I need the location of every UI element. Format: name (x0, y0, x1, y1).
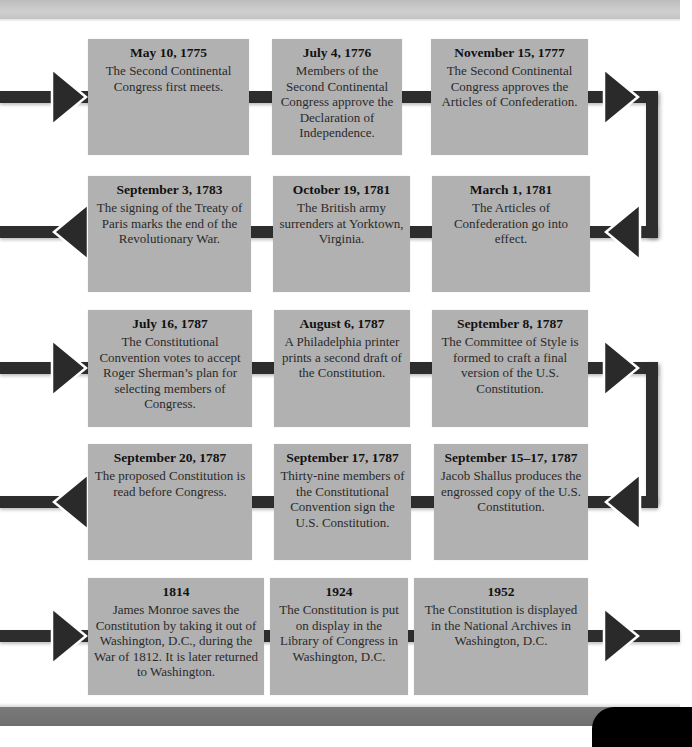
connector-line (409, 496, 436, 508)
event-date: July 4, 1776 (278, 45, 396, 61)
event-description: The Constitution is displayed in the Nat… (420, 602, 582, 649)
connector-line (400, 91, 434, 103)
arrow-right-icon (602, 67, 642, 127)
event-date: September 17, 1787 (280, 450, 405, 466)
timeline-event: September 3, 1783 The signing of the Tre… (88, 176, 251, 292)
arrow-right-icon (602, 338, 642, 398)
event-description: The Second Continental Congress approves… (437, 63, 582, 110)
arrow-left-icon (50, 202, 90, 262)
timeline-event: 1814 James Monroe saves the Constitution… (88, 578, 264, 695)
timeline-event: July 4, 1776 Members of the Second Conti… (272, 39, 402, 155)
arrow-left-icon (602, 202, 642, 262)
event-date: July 16, 1787 (94, 316, 246, 332)
timeline-event: October 19, 1781 The British army surren… (273, 176, 410, 292)
timeline-event: September 20, 1787 The proposed Constitu… (88, 444, 252, 560)
event-date: March 1, 1781 (438, 182, 584, 198)
event-description: A Philadelphia printer prints a second d… (280, 334, 404, 381)
connector-line (250, 362, 276, 374)
connector-line (250, 496, 276, 508)
connector-line (408, 226, 434, 238)
event-date: 1924 (276, 584, 402, 600)
timeline-event: August 6, 1787 A Philadelphia printer pr… (274, 310, 410, 427)
connector-line (248, 91, 274, 103)
top-texture-band (0, 0, 680, 19)
event-description: Thirty-nine members of the Constitutiona… (280, 468, 405, 530)
timeline-event: May 10, 1775 The Second Continental Cong… (88, 39, 249, 155)
event-date: September 8, 1787 (438, 316, 582, 332)
arrow-right-icon (50, 606, 90, 666)
connector-line (408, 362, 434, 374)
arrow-left-icon (50, 472, 90, 532)
connector-line-vertical (646, 362, 658, 504)
timeline-event: July 16, 1787 The Constitutional Convent… (88, 310, 252, 427)
event-date: August 6, 1787 (280, 316, 404, 332)
event-description: James Monroe saves the Constitution by t… (94, 602, 258, 680)
event-description: The Articles of Confederation go into ef… (438, 200, 584, 247)
timeline-event: November 15, 1777 The Second Continental… (431, 39, 588, 155)
timeline-event: 1952 The Constitution is displayed in th… (414, 578, 588, 695)
event-date: September 20, 1787 (94, 450, 246, 466)
event-description: Jacob Shallus produces the engrossed cop… (440, 468, 582, 515)
event-description: The proposed Constitution is read before… (94, 468, 246, 499)
event-date: November 15, 1777 (437, 45, 582, 61)
corner-tab (592, 707, 692, 747)
bottom-band (0, 707, 680, 726)
timeline-event: September 15–17, 1787 Jacob Shallus prod… (434, 444, 588, 560)
arrow-left-icon (602, 472, 642, 532)
event-description: Members of the Second Continental Congre… (278, 63, 396, 141)
timeline-event: March 1, 1781 The Articles of Confederat… (432, 176, 590, 292)
event-description: The Constitution is put on display in th… (276, 602, 402, 664)
event-description: The signing of the Treaty of Paris marks… (94, 200, 245, 247)
event-description: The Committee of Style is formed to craf… (438, 334, 582, 396)
event-description: The British army surrenders at Yorktown,… (279, 200, 404, 247)
event-date: 1814 (94, 584, 258, 600)
timeline-event: September 17, 1787 Thirty-nine members o… (274, 444, 411, 560)
event-date: 1952 (420, 584, 582, 600)
timeline-event: 1924 The Constitution is put on display … (270, 578, 408, 695)
connector-line-vertical (646, 91, 658, 237)
event-description: The Constitutional Convention votes to a… (94, 334, 246, 412)
timeline-event: September 8, 1787 The Committee of Style… (432, 310, 588, 427)
event-date: September 15–17, 1787 (440, 450, 582, 466)
arrow-right-icon (602, 606, 642, 666)
event-date: October 19, 1781 (279, 182, 404, 198)
event-date: September 3, 1783 (94, 182, 245, 198)
arrow-right-icon (50, 67, 90, 127)
event-description: The Second Continental Congress first me… (94, 63, 243, 94)
arrow-right-icon (50, 338, 90, 398)
event-date: May 10, 1775 (94, 45, 243, 61)
